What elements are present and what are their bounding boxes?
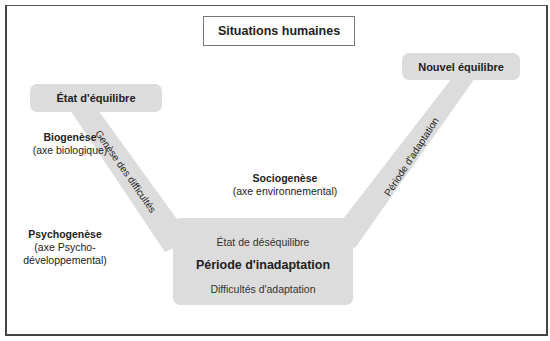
axis-biogenese-name: Biogenèse (20, 131, 120, 144)
axis-psychogenese: Psychogenèse (axe Psycho- développementa… (10, 228, 120, 267)
center-state-box: État de déséquilibre Période d'inadaptat… (173, 218, 353, 305)
axis-biogenese: Biogenèse (axe biologique) (20, 131, 120, 157)
axis-biogenese-desc: (axe biologique) (33, 144, 108, 156)
center-line-2: Période d'inadaptation (173, 258, 353, 272)
diagram-title: Situations humaines (203, 16, 355, 46)
axis-psychogenese-desc-1: (axe Psycho- (10, 241, 120, 254)
axis-sociogenese-name: Sociogenèse (215, 172, 355, 185)
initial-state-box: État d'équilibre (30, 84, 162, 112)
center-line-3: Difficultés d'adaptation (173, 283, 353, 295)
axis-sociogenese-desc: (axe environnemental) (233, 185, 337, 197)
axis-psychogenese-name: Psychogenèse (10, 228, 120, 241)
final-state-box: Nouvel équilibre (402, 53, 520, 80)
axis-sociogenese: Sociogenèse (axe environnemental) (215, 172, 355, 198)
center-line-1: État de déséquilibre (173, 236, 353, 248)
axis-psychogenese-desc-2: développemental) (10, 254, 120, 267)
